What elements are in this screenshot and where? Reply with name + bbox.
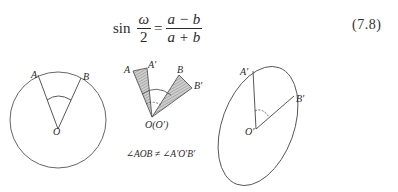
radius-ob	[58, 78, 81, 129]
angle-arc	[47, 96, 71, 100]
label-a-prime: A′	[239, 66, 249, 77]
hatched-sector-aa	[133, 68, 152, 117]
label-o-o-prime: O(O′)	[145, 119, 169, 131]
radius-oa	[38, 75, 58, 129]
ellipse-outline	[203, 55, 313, 192]
radius-oa-prime	[253, 71, 256, 129]
label-b: B	[177, 64, 183, 75]
label-b-prime: B′	[194, 80, 203, 91]
radius-ob-prime	[256, 96, 294, 129]
angle-arc	[255, 110, 269, 117]
middle-sectors-figure: A A′ B B′ O(O′) ∠AOB ≠ ∠A′O′B′	[123, 59, 203, 159]
right-ellipse-figure: A′ B′ O′	[203, 55, 313, 192]
label-o: O	[53, 126, 60, 137]
circle-outline	[10, 72, 106, 168]
label-o-prime: O′	[245, 126, 255, 137]
label-a: A	[123, 64, 131, 75]
label-a: A	[30, 69, 38, 80]
left-circle-figure: A B O	[10, 69, 106, 168]
label-b: B	[83, 71, 89, 82]
label-a-prime: A′	[147, 59, 157, 70]
angle-inequality-caption: ∠AOB ≠ ∠A′O′B′	[126, 149, 196, 159]
figures-canvas: A B O A A′ B B′ O(O′) ∠AOB ≠ ∠A′O′B′ A′ …	[0, 0, 398, 192]
hatched-sector-bb	[152, 75, 192, 117]
label-b-prime: B′	[296, 93, 305, 104]
